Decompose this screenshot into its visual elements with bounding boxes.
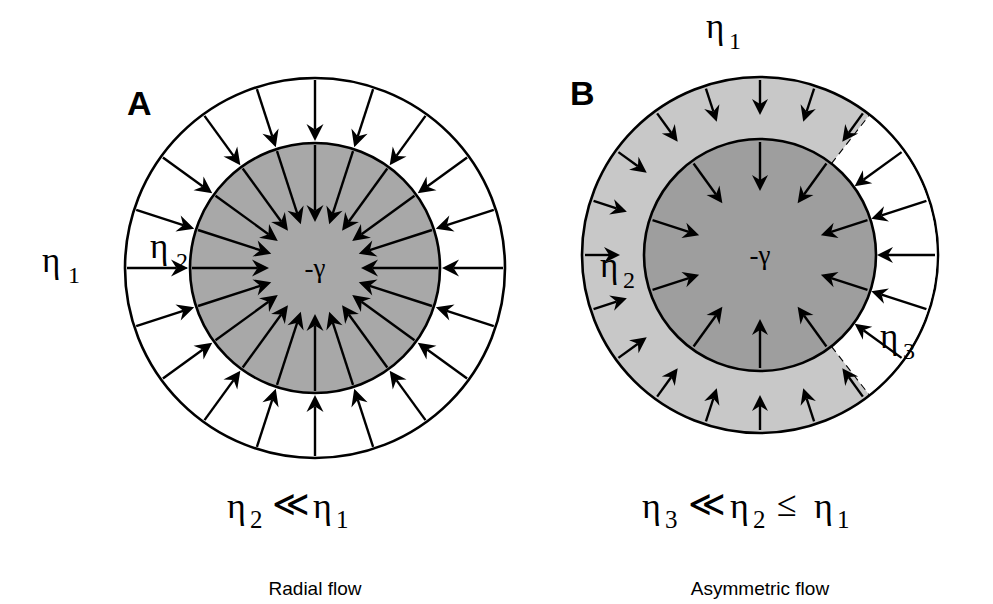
panel-b: -γBη1η2η3η3≪η2≤η1Asymmetric flow xyxy=(570,7,938,599)
eta-subscript: 2 xyxy=(176,248,188,274)
eta-symbol: η xyxy=(42,241,60,280)
relation-part-5: ≤ xyxy=(777,484,797,524)
panel-b-letter: B xyxy=(570,74,595,112)
viscosity-relation-panel-b: η3≪η2≤η1 xyxy=(642,484,850,533)
eta-symbol: η xyxy=(706,7,724,46)
eta-subscript: 1 xyxy=(729,28,741,54)
eta-symbol: η xyxy=(600,246,618,285)
panel-b-caption: Asymmetric flow xyxy=(691,578,830,599)
eta-symbol: η xyxy=(150,227,168,266)
relation-part-2: ≪ xyxy=(688,484,726,524)
relation-part-3: η xyxy=(313,486,332,526)
relation-part-2: ≪ xyxy=(272,484,310,524)
relation-part-1: 3 xyxy=(665,506,678,533)
relation-part-0: η xyxy=(642,486,661,526)
relation-part-4: 1 xyxy=(336,506,349,533)
relation-part-0: η xyxy=(227,486,246,526)
relation-part-1: 2 xyxy=(250,506,263,533)
flow-diagram-canvas: -γAη1η2η2≪η1Radial flow-γBη1η2η3η3≪η2≤η1… xyxy=(0,0,993,604)
eta-subscript: 3 xyxy=(903,338,915,364)
relation-part-4: 2 xyxy=(753,506,766,533)
viscosity-relation-panel-a: η2≪η1 xyxy=(227,484,349,533)
eta-symbol: η xyxy=(880,317,898,356)
relation-part-6: η xyxy=(814,486,833,526)
label-eta1-panel-a: η1 xyxy=(42,241,80,288)
relation-part-3: η xyxy=(730,486,749,526)
eta-subscript: 2 xyxy=(623,267,635,293)
panel-b-center-gamma-label: -γ xyxy=(750,240,771,270)
eta-subscript: 1 xyxy=(68,262,80,288)
panel-a: -γAη1η2η2≪η1Radial flow xyxy=(42,78,505,599)
panel-a-caption: Radial flow xyxy=(269,578,362,599)
relation-part-7: 1 xyxy=(837,506,850,533)
figure-root: -γAη1η2η2≪η1Radial flow-γBη1η2η3η3≪η2≤η1… xyxy=(0,0,993,604)
panel-a-center-gamma-label: -γ xyxy=(305,253,326,283)
panel-a-letter: A xyxy=(127,84,152,122)
label-eta1-panel-b: η1 xyxy=(706,7,741,54)
